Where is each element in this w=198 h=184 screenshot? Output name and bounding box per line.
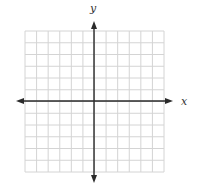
x-axis-left-arrow-icon [16,98,24,104]
y-axis-up-arrow-icon [91,21,97,29]
x-axis-right-arrow-icon [165,98,173,104]
y-axis-down-arrow-icon [91,175,97,183]
coordinate-plane: x y [0,0,198,184]
y-axis-label: y [89,2,97,15]
x-axis-label: x [181,95,188,108]
